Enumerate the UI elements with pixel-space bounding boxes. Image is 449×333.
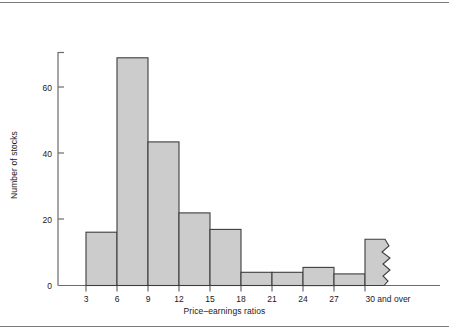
figure-canvas: 0 20 40 60 3 6 9 12 15 18 21 24 27 30 an… xyxy=(0,0,449,333)
y-axis-title: Number of stocks xyxy=(9,120,19,210)
bar-12-15 xyxy=(179,213,210,286)
bar-30-and-over-truncated xyxy=(365,239,390,285)
y-tick-label-60: 60 xyxy=(26,83,52,93)
x-tick-label-24: 24 xyxy=(288,294,318,304)
x-tick-label-21: 21 xyxy=(257,294,287,304)
x-tick-label-27: 27 xyxy=(319,294,349,304)
bar-18-21 xyxy=(241,272,272,285)
x-tick-label-3: 3 xyxy=(71,294,101,304)
bar-24-27 xyxy=(303,267,334,285)
y-tick-label-0: 0 xyxy=(26,281,52,291)
y-tick-label-40: 40 xyxy=(26,149,52,159)
bar-9-12 xyxy=(148,142,179,286)
bar-15-18 xyxy=(210,229,241,285)
bar-6-9 xyxy=(117,58,148,286)
x-tick-label-12: 12 xyxy=(164,294,194,304)
x-tick-label-6: 6 xyxy=(102,294,132,304)
x-tick-label-9: 9 xyxy=(133,294,163,304)
bar-3-6 xyxy=(86,232,117,285)
x-tick-label-15: 15 xyxy=(195,294,225,304)
bar-21-24 xyxy=(272,272,303,285)
bar-27-30 xyxy=(334,274,365,286)
x-tick-label-18: 18 xyxy=(226,294,256,304)
y-tick-label-20: 20 xyxy=(26,215,52,225)
histogram-plot xyxy=(0,0,449,333)
x-axis-title: Price–earnings ratios xyxy=(0,306,449,316)
x-tick-label-30-and-over: 30 and over xyxy=(348,294,428,304)
